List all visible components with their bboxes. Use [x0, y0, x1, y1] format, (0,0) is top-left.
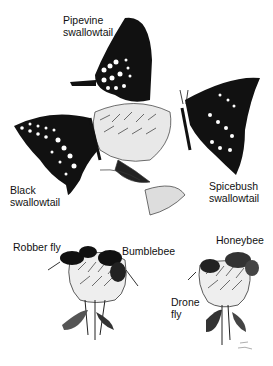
- label-pipevine-swallowtail: Pipevine swallowtail: [63, 14, 113, 38]
- milkweed-flower-drawing: [93, 104, 185, 216]
- mimicry-illustration: Pipevine swallowtail Black swallowtail S…: [0, 0, 273, 366]
- label-drone-fly: Drone fly: [171, 296, 200, 320]
- label-robber-fly: Robber fly: [13, 241, 61, 253]
- artist-signature: [238, 342, 252, 349]
- label-honeybee: Honeybee: [216, 234, 264, 246]
- spicebush-swallowtail-drawing: [180, 78, 260, 175]
- label-black-swallowtail: Black swallowtail: [10, 184, 60, 208]
- black-swallowtail-drawing: [14, 114, 100, 195]
- label-spicebush-swallowtail: Spicebush swallowtail: [209, 180, 259, 204]
- label-bumblebee: Bumblebee: [122, 245, 175, 257]
- clover-left-drawing: [48, 246, 138, 340]
